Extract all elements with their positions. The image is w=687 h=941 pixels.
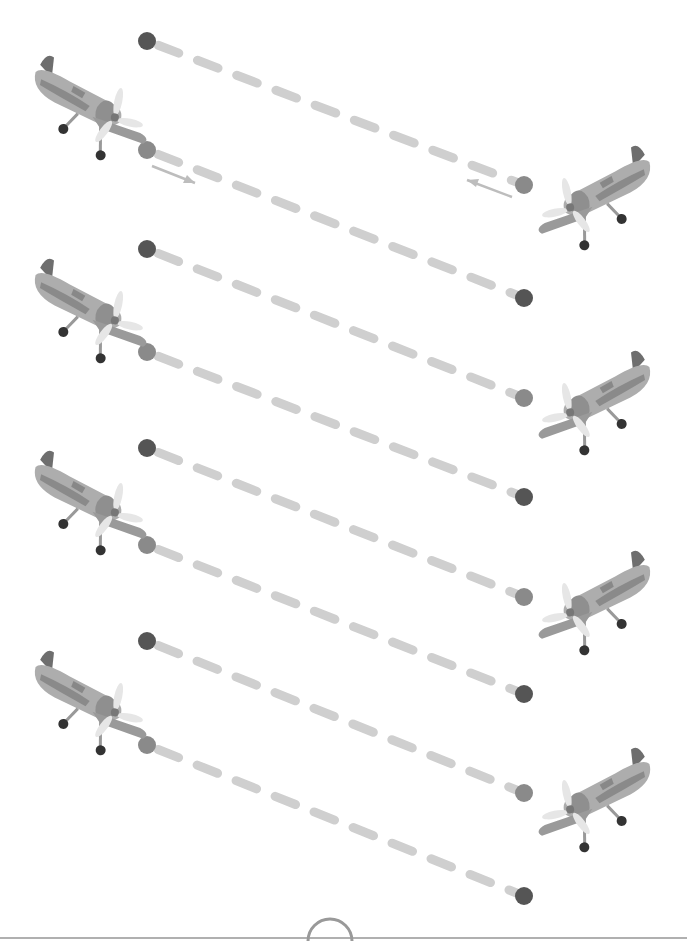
start-dot[interactable] (138, 536, 156, 554)
end-dot[interactable] (515, 588, 533, 606)
trace-line[interactable] (138, 240, 533, 407)
end-dot[interactable] (515, 887, 533, 905)
arrow-right-icon (152, 166, 195, 183)
airplane-illustrations (20, 53, 664, 860)
end-dot[interactable] (515, 784, 533, 802)
trace-line[interactable] (138, 632, 533, 802)
end-dot[interactable] (515, 488, 533, 506)
start-dot[interactable] (138, 141, 156, 159)
trace-line[interactable] (138, 439, 533, 606)
start-dot[interactable] (138, 632, 156, 650)
start-dot[interactable] (138, 439, 156, 457)
start-dot[interactable] (138, 736, 156, 754)
airplane-icon (526, 548, 665, 663)
tracing-worksheet (0, 0, 687, 941)
airplane-icon (526, 143, 665, 258)
arrow-left-icon (467, 179, 512, 197)
end-dot[interactable] (515, 176, 533, 194)
start-dot[interactable] (138, 32, 156, 50)
end-dot[interactable] (515, 685, 533, 703)
trace-line[interactable] (138, 536, 533, 703)
trace-line[interactable] (138, 736, 533, 905)
tracing-lines (138, 32, 533, 905)
airplane-icon (526, 745, 665, 860)
airplane-icon (526, 348, 665, 463)
trace-line[interactable] (138, 343, 533, 506)
end-dot[interactable] (515, 289, 533, 307)
start-dot[interactable] (138, 240, 156, 258)
end-dot[interactable] (515, 389, 533, 407)
